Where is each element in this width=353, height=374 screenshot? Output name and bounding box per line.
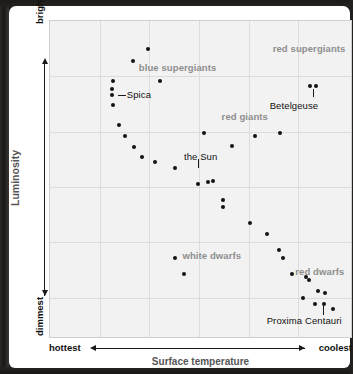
y-axis-bottom-label: dimmest	[34, 297, 45, 336]
star-point	[146, 47, 150, 51]
star-point	[323, 291, 327, 295]
star-point	[308, 84, 312, 88]
star-point	[111, 79, 115, 83]
vertical-gridline-3	[249, 21, 250, 337]
horizontal-gridline-4	[50, 298, 351, 299]
x-axis: hottest coolest	[49, 342, 352, 356]
arrow-down-icon	[42, 290, 48, 296]
vertical-gridline-4	[298, 21, 299, 337]
y-axis-line	[44, 64, 45, 296]
y-axis-top-label: brightest	[34, 0, 45, 24]
diagram-card: blue supergiantsred supergiantsred giant…	[9, 6, 350, 368]
star-point	[307, 278, 311, 282]
y-axis: brightest dimmest	[25, 20, 49, 338]
horizontal-gridline-3	[50, 242, 351, 243]
star-point	[301, 296, 305, 300]
star-point	[290, 272, 294, 276]
star-point	[173, 166, 177, 170]
star-point	[117, 123, 121, 127]
star-point	[281, 256, 285, 260]
star-name-label: Proxima Centauri	[267, 315, 342, 326]
y-axis-title: Luminosity	[9, 150, 21, 206]
category-label: red supergiants	[273, 43, 346, 54]
star-point	[221, 198, 225, 202]
star-point	[123, 134, 127, 138]
star-name-label: Spica	[127, 89, 151, 100]
x-axis-line	[96, 348, 305, 349]
label-leader-line	[118, 95, 126, 96]
star-point	[314, 84, 318, 88]
star-point	[196, 182, 200, 186]
horizontal-gridline-0	[50, 76, 351, 77]
star-point	[153, 160, 157, 164]
horizontal-gridline-1	[50, 132, 351, 133]
x-axis-left-label: hottest	[49, 342, 81, 353]
star-point	[202, 131, 206, 135]
vertical-gridline-0	[100, 21, 101, 337]
category-label: white dwarfs	[182, 250, 241, 261]
star-point	[248, 221, 252, 225]
scan-edge-bottom	[0, 367, 353, 374]
label-leader-line	[323, 306, 324, 315]
star-point	[206, 180, 210, 184]
star-point	[132, 145, 136, 149]
star-point	[278, 131, 282, 135]
star-name-label: the Sun	[184, 151, 217, 162]
star-name-label: Betelgeuse	[270, 100, 319, 111]
category-label: red dwarfs	[295, 266, 344, 277]
star-point	[110, 93, 114, 97]
hr-diagram-plot: blue supergiantsred supergiantsred giant…	[49, 20, 352, 338]
star-point	[221, 205, 225, 209]
star-point	[265, 232, 269, 236]
star-point	[110, 87, 114, 91]
star-point	[230, 144, 234, 148]
category-label: blue supergiants	[139, 62, 217, 73]
star-point	[211, 179, 215, 183]
star-point	[182, 272, 186, 276]
star-point	[313, 302, 317, 306]
x-axis-title: Surface temperature	[49, 356, 352, 367]
star-point	[131, 59, 135, 63]
x-axis-right-label: coolest	[319, 342, 352, 353]
arrow-left-icon	[90, 345, 96, 351]
star-point	[316, 289, 320, 293]
category-label: red giants	[222, 111, 268, 122]
horizontal-gridline-2	[50, 187, 351, 188]
scan-edge-left	[0, 0, 9, 374]
arrow-right-icon	[299, 345, 305, 351]
label-leader-line	[313, 89, 314, 97]
label-leader-line	[198, 159, 199, 168]
star-point	[158, 79, 162, 83]
star-point	[277, 248, 281, 252]
star-point	[331, 307, 335, 311]
star-point	[140, 155, 144, 159]
star-point	[253, 134, 257, 138]
star-point	[111, 103, 115, 107]
star-point	[173, 256, 177, 260]
